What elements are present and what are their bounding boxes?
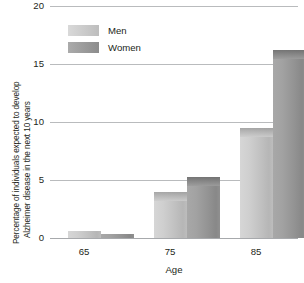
legend-swatch-women-icon — [68, 42, 99, 53]
y-tick-label-10: 10 — [4, 117, 44, 127]
bar-cap — [187, 177, 220, 186]
bar-cap — [240, 128, 273, 137]
bar-chart: Percentage of individuals expected to de… — [0, 0, 304, 283]
y-tick-label-0: 0 — [4, 233, 44, 243]
y-axis-title-line-1: Percentage of individuals expected to de… — [12, 81, 21, 244]
bar-cap — [154, 192, 187, 201]
legend: Men Women — [68, 23, 141, 57]
y-tick-label-5: 5 — [4, 175, 44, 185]
legend-swatch-men-icon — [68, 25, 99, 36]
legend-label-women: Women — [108, 42, 141, 53]
x-axis-line — [50, 238, 298, 239]
y-tick-label-15: 15 — [4, 59, 44, 69]
bar-men-75[interactable] — [154, 192, 187, 238]
bar-cap — [273, 50, 304, 59]
bar-men-85[interactable] — [240, 128, 273, 238]
legend-label-men: Men — [108, 25, 127, 36]
x-tick-label-65: 65 — [49, 246, 119, 257]
gridline-20 — [50, 6, 298, 7]
y-tick-label-20: 20 — [4, 1, 44, 11]
legend-item-women[interactable]: Women — [68, 40, 141, 54]
x-axis-title: Age — [50, 264, 298, 275]
bar-women-75[interactable] — [187, 177, 220, 238]
gridline-15 — [50, 64, 298, 65]
legend-item-men[interactable]: Men — [68, 23, 141, 37]
gridline-10 — [50, 122, 298, 123]
bar-men-65[interactable] — [68, 231, 101, 238]
bar-women-85[interactable] — [273, 50, 304, 238]
bar-women-65[interactable] — [101, 234, 134, 238]
x-tick-label-75: 75 — [135, 246, 205, 257]
x-tick-label-85: 85 — [221, 246, 291, 257]
